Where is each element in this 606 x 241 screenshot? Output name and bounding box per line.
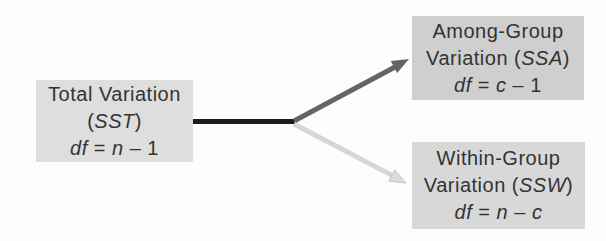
among-group-label: Among-Group: [432, 20, 563, 42]
df-var: n: [112, 137, 124, 159]
df-expr: – 1: [124, 137, 159, 159]
variation-paren-open: Variation (: [426, 47, 521, 69]
df-eq: =: [472, 74, 496, 96]
total-variation-label: Total Variation: [48, 83, 181, 105]
node-title-line: Total Variation: [48, 81, 181, 108]
df-expr: – 1: [507, 74, 542, 96]
df-eq: =: [88, 137, 112, 159]
among-arrow-shaft: [294, 67, 395, 121]
paren-close: ): [135, 110, 142, 132]
paren-close: ): [566, 174, 573, 196]
node-within-group-variation: Within-Group Variation (SSW) df = n – c: [412, 142, 585, 229]
node-among-group-variation: Among-Group Variation (SSA) df = c – 1: [412, 16, 584, 100]
df-label: df: [455, 201, 473, 223]
sst-term: SST: [94, 110, 134, 132]
df-label: df: [70, 137, 88, 159]
node-term-line: Variation (SSA): [426, 45, 570, 72]
node-df-line: df = n – c: [455, 199, 543, 226]
df-eq: =: [472, 201, 496, 223]
node-df-line: df = n – 1: [70, 135, 159, 162]
node-total-variation: Total Variation (SST) df = n – 1: [36, 80, 193, 162]
within-arrow-shaft: [294, 124, 393, 176]
node-term-line: (SST): [87, 108, 142, 135]
df-var: c: [496, 74, 507, 96]
anova-variation-partition-diagram: Total Variation (SST) df = n – 1 Among-G…: [0, 0, 606, 241]
variation-paren-open: Variation (: [424, 174, 519, 196]
paren-close: ): [563, 47, 570, 69]
node-title-line: Among-Group: [432, 18, 563, 45]
among-arrow-head: [391, 59, 409, 73]
df-var: n: [497, 201, 509, 223]
within-group-label: Within-Group: [437, 147, 561, 169]
node-title-line: Within-Group: [437, 145, 561, 172]
ssa-term: SSA: [521, 47, 563, 69]
df-var2: c: [532, 201, 543, 223]
ssw-term: SSW: [519, 174, 566, 196]
node-term-line: Variation (SSW): [424, 172, 573, 199]
within-arrow-head: [389, 170, 406, 183]
df-label: df: [454, 74, 472, 96]
df-expr: –: [508, 201, 532, 223]
node-df-line: df = c – 1: [454, 72, 542, 99]
